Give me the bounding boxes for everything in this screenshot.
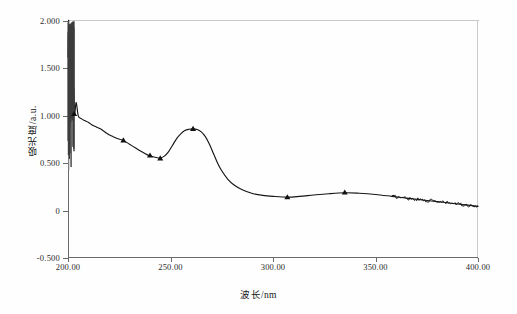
y-tick (63, 163, 68, 164)
y-tick (63, 21, 68, 22)
y-tick-label: 0 (12, 206, 60, 216)
x-tick-label: 400.00 (448, 262, 508, 272)
chart-canvas: 200.00250.00300.00350.00400.00 2.0001.50… (0, 0, 517, 314)
y-tick-label: -0.500 (12, 253, 60, 263)
y-tick (63, 211, 68, 212)
x-tick-label: 250.00 (141, 262, 201, 272)
y-axis-tick-labels: 2.0001.5001.0000.5000-0.500 (8, 0, 60, 314)
y-tick (63, 68, 68, 69)
x-axis-title: 波长/nm (0, 287, 517, 301)
y-tick (63, 258, 68, 259)
y-tick-label: 0.500 (12, 158, 60, 168)
x-tick-label: 300.00 (243, 262, 303, 272)
plot-area (68, 21, 478, 258)
y-tick (63, 116, 68, 117)
y-axis-title: 吸光度/a.u. (26, 105, 40, 156)
y-tick-label: 2.000 (12, 16, 60, 26)
y-tick-label: 1.500 (12, 63, 60, 73)
x-tick-label: 350.00 (346, 262, 406, 272)
